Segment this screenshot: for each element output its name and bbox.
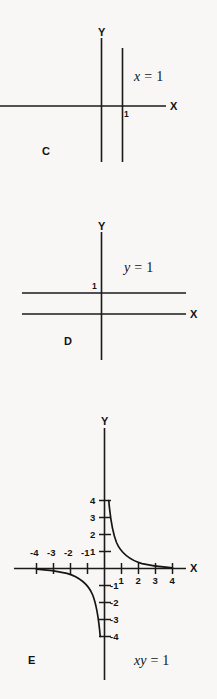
panel-letter-d: D [64, 335, 72, 347]
panel-letter-c: C [42, 145, 50, 157]
x-tick-label-2: 2 [136, 575, 141, 586]
equation-label-e: xy=1 [133, 653, 169, 668]
panel-c-graph: X Y 1 C x=1 [0, 0, 217, 200]
panel-d: X Y 1 D y=1 [0, 200, 217, 380]
figure-page: X Y 1 C x=1 X Y 1 D y=1 [0, 0, 217, 699]
equation-value: 1 [146, 260, 153, 275]
y-axis-label: Y [101, 415, 109, 427]
y-tick-label--3: -3 [110, 614, 118, 625]
equation-operator: = [144, 69, 152, 84]
x-tick-label--1: -1 [81, 547, 90, 558]
y-axis-label: Y [98, 26, 106, 38]
y-tick-label--4: -4 [110, 631, 119, 642]
x-axis-label: X [190, 308, 198, 320]
x-tick-label-3: 3 [153, 575, 158, 586]
panel-e-graph: -4 -3 -2 -1 1 2 3 4 4 3 2 1 -1 -2 -3 -4 … [0, 380, 217, 699]
y-tick-label--2: -2 [110, 597, 118, 608]
equation-label-d: y=1 [122, 260, 153, 275]
equation-label-c: x=1 [133, 69, 163, 84]
x-axis-label: X [190, 562, 198, 574]
y-tick-label-2: 2 [90, 529, 95, 540]
tick-label-1: 1 [92, 281, 97, 291]
panel-c: X Y 1 C x=1 [0, 0, 217, 200]
hyperbola-branch-first-quadrant [109, 501, 173, 568]
equation-value: 1 [156, 69, 163, 84]
x-tick-label--2: -2 [64, 547, 72, 558]
equation-operator: = [134, 260, 142, 275]
x-tick-label--3: -3 [47, 547, 55, 558]
y-tick-label-1: 1 [90, 546, 96, 557]
equation-variable: xy [133, 653, 147, 668]
x-axis-label: X [170, 100, 178, 112]
y-tick-label-3: 3 [90, 512, 95, 523]
equation-variable: y [122, 260, 131, 275]
panel-e: -4 -3 -2 -1 1 2 3 4 4 3 2 1 -1 -2 -3 -4 … [0, 380, 217, 699]
tick-label-1: 1 [124, 109, 129, 119]
panel-letter-e: E [28, 654, 36, 666]
equation-value: 1 [162, 653, 169, 668]
y-tick-label-4: 4 [90, 495, 96, 506]
panel-d-graph: X Y 1 D y=1 [0, 200, 217, 380]
equation-operator: = [150, 653, 158, 668]
x-tick-label-1: 1 [119, 575, 125, 586]
hyperbola-branch-third-quadrant [37, 569, 101, 636]
y-axis-label: Y [98, 220, 106, 232]
x-tick-label-4: 4 [170, 575, 176, 586]
x-tick-label--4: -4 [30, 547, 39, 558]
y-tick-label--1: -1 [110, 580, 119, 591]
equation-variable: x [133, 69, 141, 84]
